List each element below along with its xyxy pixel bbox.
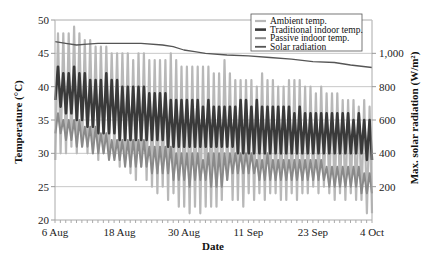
x-tick-label: 4 Oct bbox=[360, 226, 384, 238]
y2-tick-label: 400 bbox=[379, 147, 396, 159]
y2-tick-label: 600 bbox=[379, 114, 396, 126]
y-tick-label: 35 bbox=[38, 114, 50, 126]
x-tick-label: 23 Sep bbox=[298, 226, 329, 238]
y2-tick-label: 1,000 bbox=[379, 47, 404, 59]
y2-axis-title: Max. solar radiation (W/m²) bbox=[408, 51, 421, 184]
legend-label: Solar radiation bbox=[270, 42, 326, 52]
y-axis-title: Temperature (°C) bbox=[12, 80, 25, 164]
legend: Ambient temp.Traditional indoor temp.Pas… bbox=[251, 14, 363, 52]
chart: 20253035404550 2004006008001,000 6 Aug18… bbox=[0, 0, 437, 267]
x-tick-label: 30 Aug bbox=[168, 226, 201, 238]
y-tick-label: 50 bbox=[38, 14, 50, 26]
x-tick-label: 6 Aug bbox=[42, 226, 69, 238]
y2-tick-label: 800 bbox=[379, 81, 396, 93]
y-tick-label: 30 bbox=[38, 147, 50, 159]
right-axis-ticks: 2004006008001,000 bbox=[372, 47, 404, 192]
x-axis-ticks: 6 Aug18 Aug30 Aug11 Sep23 Sep4 Oct bbox=[42, 220, 384, 238]
left-axis-ticks: 20253035404550 bbox=[38, 14, 55, 226]
x-axis-title: Date bbox=[202, 240, 224, 252]
x-tick-label: 11 Sep bbox=[234, 226, 264, 238]
y-tick-label: 20 bbox=[38, 214, 50, 226]
y2-tick-label: 200 bbox=[379, 181, 396, 193]
y-tick-label: 25 bbox=[38, 181, 50, 193]
y-tick-label: 40 bbox=[38, 81, 50, 93]
x-tick-label: 18 Aug bbox=[103, 226, 136, 238]
y-tick-label: 45 bbox=[38, 47, 50, 59]
